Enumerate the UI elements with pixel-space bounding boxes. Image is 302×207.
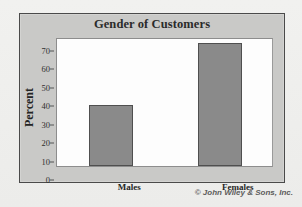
bars-layer <box>57 39 272 166</box>
chart-title: Gender of Customers <box>20 17 284 32</box>
y-tick-label-30: 30 <box>42 120 51 130</box>
chart-frame: Gender of Customers Percent 010203040506… <box>19 13 285 183</box>
copyright-credit: © John Wiley & Sons, Inc. <box>195 188 293 197</box>
page-background: Gender of Customers Percent 010203040506… <box>0 0 302 207</box>
y-tick-mark-70 <box>50 51 54 52</box>
y-tick-label-50: 50 <box>42 83 51 93</box>
y-tick-label-10: 10 <box>42 157 51 167</box>
y-tick-label-20: 20 <box>42 138 51 148</box>
y-tick-mark-40 <box>50 106 54 107</box>
y-tick-label-60: 60 <box>42 64 51 74</box>
y-tick-label-40: 40 <box>42 101 51 111</box>
y-tick-mark-30 <box>50 124 54 125</box>
y-tick-mark-0 <box>50 180 54 181</box>
y-tick-mark-20 <box>50 143 54 144</box>
x-tick-label-males: Males <box>118 182 141 192</box>
y-axis-tick-labels: 010203040506070 <box>34 51 54 180</box>
y-tick-mark-10 <box>50 161 54 162</box>
y-tick-mark-60 <box>50 69 54 70</box>
y-tick-mark-50 <box>50 87 54 88</box>
bar-males <box>89 105 133 166</box>
plot-area <box>56 38 273 167</box>
bar-females <box>198 43 242 166</box>
y-tick-label-70: 70 <box>42 46 51 56</box>
